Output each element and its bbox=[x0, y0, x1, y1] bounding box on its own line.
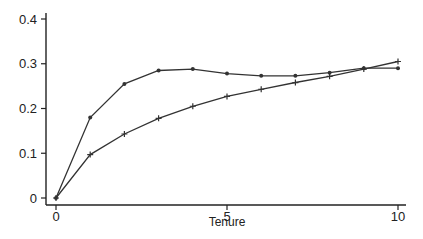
dot-marker bbox=[122, 82, 126, 86]
plus-marker bbox=[156, 115, 162, 121]
y-tick-label: 0 bbox=[30, 191, 37, 206]
y-tick-label: 0.3 bbox=[19, 56, 37, 71]
y-tick-label: 0.2 bbox=[19, 101, 37, 116]
x-tick-label: 0 bbox=[52, 209, 59, 224]
series-dot-line bbox=[56, 68, 398, 198]
plus-marker bbox=[292, 80, 298, 86]
plus-marker bbox=[224, 93, 230, 99]
axes: 00.10.20.30.40510 bbox=[19, 12, 406, 225]
y-tick-label: 0.4 bbox=[19, 12, 37, 27]
y-tick-label: 0.1 bbox=[19, 146, 37, 161]
dot-marker bbox=[191, 67, 195, 71]
dot-marker bbox=[396, 66, 400, 70]
plus-marker bbox=[258, 86, 264, 92]
plus-marker bbox=[121, 131, 127, 137]
plus-marker bbox=[327, 73, 333, 79]
plot-area bbox=[53, 59, 401, 201]
series-plus-line bbox=[56, 62, 398, 199]
plus-marker bbox=[361, 66, 367, 72]
plus-marker bbox=[190, 103, 196, 109]
dot-marker bbox=[293, 74, 297, 78]
dot-marker bbox=[88, 115, 92, 119]
line-chart: 00.10.20.30.40510 Tenure bbox=[0, 0, 423, 239]
dot-marker bbox=[259, 74, 263, 78]
plus-marker bbox=[395, 59, 401, 65]
x-axis-title: Tenure bbox=[209, 215, 246, 229]
x-tick-label: 10 bbox=[391, 209, 405, 224]
dot-marker bbox=[225, 72, 229, 76]
dot-marker bbox=[157, 68, 161, 72]
